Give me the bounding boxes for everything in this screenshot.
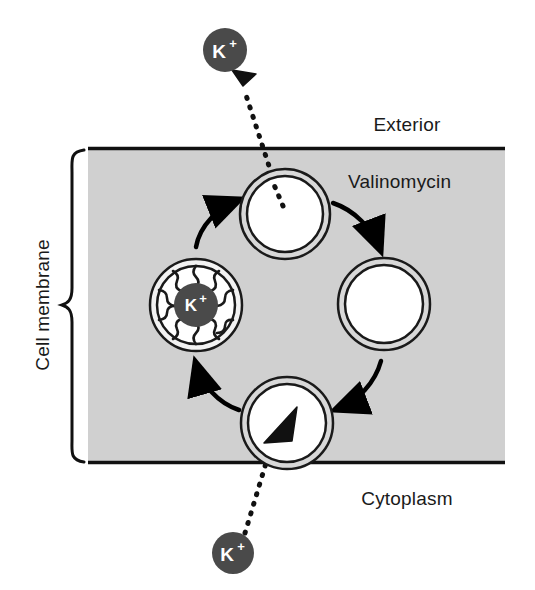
bound-potassium-symbol: K [185,296,198,315]
valinomycin-label: Valinomycin [348,171,451,192]
cytoplasm-potassium-symbol: K [220,544,234,565]
cell-membrane-label: Cell membrane [32,239,53,370]
ring-right-inner-outline [345,265,423,343]
cytoplasm-label: Cytoplasm [361,488,453,509]
cytoplasm-potassium-ion-group: K + [212,532,254,574]
exterior-potassium-ion-group: K + [203,28,247,72]
bound-potassium-charge: + [199,291,207,306]
exterior-label: Exterior [373,114,441,135]
valinomycin-transport-figure: Cell membrane Exterior Cytoplasm Valinom… [0,0,535,590]
exterior-potassium-symbol: K [212,41,226,62]
cytoplasm-potassium-charge: + [237,539,245,554]
valinomycin-ring-right [338,258,430,350]
cell-membrane-brace [62,150,84,462]
diagram-canvas: Cell membrane Exterior Cytoplasm Valinom… [0,0,535,590]
valinomycin-ring-top [240,169,330,259]
valinomycin-potassium-complex: K + [150,259,242,351]
release-arrowhead-icon [232,70,256,86]
exterior-potassium-charge: + [229,36,237,51]
cell-membrane-brace-group: Cell membrane [32,150,84,462]
ring-top-inner-outline [247,176,323,252]
